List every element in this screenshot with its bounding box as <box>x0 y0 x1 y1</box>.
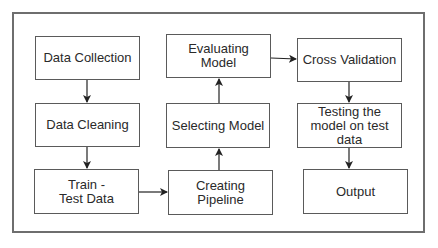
connector-arrows <box>0 0 438 248</box>
arrow-evaluating-to-crossval <box>271 58 296 59</box>
